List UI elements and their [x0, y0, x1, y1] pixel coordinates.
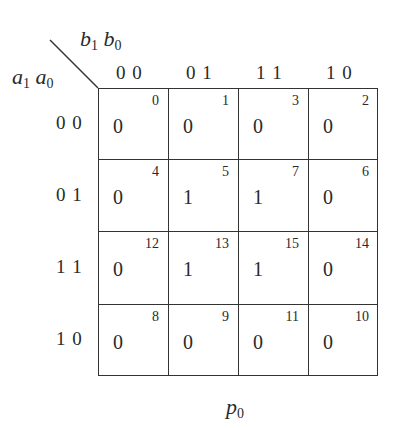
- karnaugh-grid: 00 01 03 02 04 15 17 06 012 113 115 014 …: [98, 88, 378, 376]
- minterm-index: 14: [355, 236, 369, 252]
- minterm-index: 10: [355, 309, 369, 325]
- cell-m11: 011: [239, 305, 309, 377]
- col-label-0: 0 0: [116, 62, 143, 84]
- cell-value: 0: [183, 115, 193, 138]
- col-label-3: 1 0: [326, 62, 353, 84]
- minterm-index: 12: [145, 236, 159, 252]
- cell-m6: 06: [309, 160, 379, 232]
- col-var-2-sub: 0: [115, 38, 122, 53]
- minterm-index: 0: [152, 93, 159, 109]
- row-var-1: a: [12, 64, 23, 89]
- cell-value: 0: [113, 258, 123, 281]
- row-label-0: 0 0: [56, 112, 83, 134]
- column-variables-label: b1 b0: [80, 26, 122, 54]
- cell-m4: 04: [99, 160, 169, 232]
- cell-value: 0: [253, 115, 263, 138]
- caption-sub: 0: [237, 406, 244, 421]
- minterm-index: 5: [222, 164, 229, 180]
- minterm-index: 1: [222, 93, 229, 109]
- col-var-2: b: [104, 26, 115, 51]
- minterm-index: 4: [152, 164, 159, 180]
- cell-m2: 02: [309, 89, 379, 161]
- cell-m0: 00: [99, 89, 169, 161]
- cell-value: 0: [183, 331, 193, 354]
- caption-var: p: [226, 394, 237, 419]
- minterm-index: 9: [222, 309, 229, 325]
- cell-value: 1: [183, 186, 193, 209]
- row-var-1-sub: 1: [23, 76, 30, 91]
- minterm-index: 11: [286, 309, 299, 325]
- cell-value: 1: [183, 258, 193, 281]
- map-caption: p0: [226, 394, 244, 422]
- cell-value: 0: [113, 331, 123, 354]
- row-var-2-sub: 0: [47, 76, 54, 91]
- cell-value: 0: [323, 186, 333, 209]
- cell-value: 0: [253, 331, 263, 354]
- cell-value: 1: [253, 186, 263, 209]
- cell-m7: 17: [239, 160, 309, 232]
- row-var-2: a: [36, 64, 47, 89]
- minterm-index: 13: [215, 236, 229, 252]
- row-label-2: 1 1: [56, 256, 83, 278]
- minterm-index: 8: [152, 309, 159, 325]
- col-var-1: b: [80, 26, 91, 51]
- cell-value: 1: [253, 258, 263, 281]
- cell-m9: 09: [169, 305, 239, 377]
- cell-value: 0: [323, 115, 333, 138]
- cell-m13: 113: [169, 232, 239, 304]
- cell-value: 0: [113, 115, 123, 138]
- minterm-index: 3: [292, 93, 299, 109]
- cell-m12: 012: [99, 232, 169, 304]
- minterm-index: 15: [285, 236, 299, 252]
- row-label-3: 1 0: [56, 328, 83, 350]
- cell-m10: 010: [309, 305, 379, 377]
- minterm-index: 7: [292, 164, 299, 180]
- cell-m1: 01: [169, 89, 239, 161]
- cell-m8: 08: [99, 305, 169, 377]
- cell-m5: 15: [169, 160, 239, 232]
- col-label-2: 1 1: [256, 62, 283, 84]
- cell-m15: 115: [239, 232, 309, 304]
- col-var-1-sub: 1: [91, 38, 98, 53]
- minterm-index: 2: [362, 93, 369, 109]
- cell-m14: 014: [309, 232, 379, 304]
- row-label-1: 0 1: [56, 184, 83, 206]
- cell-value: 0: [113, 186, 123, 209]
- row-variables-label: a1 a0: [12, 64, 54, 92]
- cell-value: 0: [323, 331, 333, 354]
- cell-m3: 03: [239, 89, 309, 161]
- minterm-index: 6: [362, 164, 369, 180]
- cell-value: 0: [323, 258, 333, 281]
- col-label-1: 0 1: [186, 62, 213, 84]
